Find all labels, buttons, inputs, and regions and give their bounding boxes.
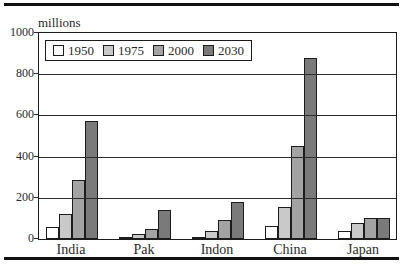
bar-pak-2000 bbox=[145, 229, 158, 239]
bar-japan-2030 bbox=[377, 218, 390, 239]
y-tick-mark-600 bbox=[34, 114, 38, 115]
x-category-label-japan: Japan bbox=[333, 242, 393, 258]
y-tick-mark-400 bbox=[34, 156, 38, 157]
gridline-200 bbox=[39, 198, 396, 199]
bar-indon-2030 bbox=[231, 202, 244, 239]
y-tick-mark-1000 bbox=[34, 32, 38, 33]
legend-swatch-1975 bbox=[103, 45, 114, 56]
bar-china-1975 bbox=[278, 207, 291, 239]
x-category-label-pak: Pak bbox=[114, 242, 174, 258]
legend-label-2030: 2030 bbox=[218, 44, 244, 57]
legend-item-1975: 1975 bbox=[103, 44, 144, 57]
bar-japan-1950 bbox=[338, 231, 351, 239]
bar-china-2030 bbox=[304, 58, 317, 239]
bar-china-2000 bbox=[291, 146, 304, 239]
x-category-label-indon: Indon bbox=[187, 242, 247, 258]
y-tick-label-0: 0 bbox=[4, 231, 34, 245]
chart-figure: millions 1950197520002030 02004006008001… bbox=[0, 0, 403, 270]
bottom-divider bbox=[4, 257, 399, 260]
y-tick-label-400: 400 bbox=[4, 149, 34, 163]
bar-japan-1975 bbox=[351, 223, 364, 239]
legend: 1950197520002030 bbox=[45, 40, 252, 61]
gridline-600 bbox=[39, 115, 396, 116]
legend-swatch-1950 bbox=[53, 45, 64, 56]
y-tick-label-600: 600 bbox=[4, 107, 34, 121]
bar-pak-2030 bbox=[158, 210, 171, 239]
bar-indon-1975 bbox=[205, 231, 218, 239]
bar-india-2030 bbox=[85, 121, 98, 239]
legend-item-2000: 2000 bbox=[153, 44, 194, 57]
legend-swatch-2030 bbox=[203, 45, 214, 56]
top-divider bbox=[4, 3, 399, 6]
y-tick-mark-800 bbox=[34, 73, 38, 74]
bar-india-1950 bbox=[46, 227, 59, 239]
x-category-label-india: India bbox=[41, 242, 101, 258]
legend-label-1975: 1975 bbox=[118, 44, 144, 57]
bar-indon-1950 bbox=[192, 237, 205, 239]
legend-label-1950: 1950 bbox=[68, 44, 94, 57]
bar-india-1975 bbox=[59, 214, 72, 239]
y-tick-label-1000: 1000 bbox=[4, 25, 34, 39]
plot-area: 1950197520002030 bbox=[38, 32, 397, 240]
bar-india-2000 bbox=[72, 180, 85, 239]
bar-pak-1975 bbox=[132, 234, 145, 239]
legend-swatch-2000 bbox=[153, 45, 164, 56]
legend-label-2000: 2000 bbox=[168, 44, 194, 57]
y-tick-label-200: 200 bbox=[4, 190, 34, 204]
bar-indon-2000 bbox=[218, 220, 231, 239]
bar-china-1950 bbox=[265, 226, 278, 239]
y-tick-mark-0 bbox=[34, 238, 38, 239]
y-tick-label-800: 800 bbox=[4, 66, 34, 80]
gridline-400 bbox=[39, 157, 396, 158]
legend-item-2030: 2030 bbox=[203, 44, 244, 57]
legend-item-1950: 1950 bbox=[53, 44, 94, 57]
y-tick-mark-200 bbox=[34, 197, 38, 198]
x-category-label-china: China bbox=[260, 242, 320, 258]
axis-unit-label: millions bbox=[38, 15, 81, 31]
bar-pak-1950 bbox=[119, 237, 132, 239]
bar-japan-2000 bbox=[364, 218, 377, 239]
gridline-800 bbox=[39, 74, 396, 75]
